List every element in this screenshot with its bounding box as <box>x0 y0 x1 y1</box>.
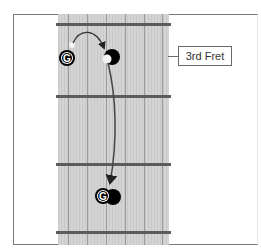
start-dot-icon <box>69 42 75 48</box>
svg-text:G: G <box>63 53 71 64</box>
note-g-start-icon: G <box>59 50 75 66</box>
note-g-end-icon: G <box>95 188 121 205</box>
curved-arrow-icon <box>73 32 104 48</box>
down-arrow-icon <box>108 63 115 183</box>
annotation-overlay: G G <box>0 0 261 251</box>
svg-text:G: G <box>99 191 107 202</box>
target-dot-icon <box>103 49 121 65</box>
